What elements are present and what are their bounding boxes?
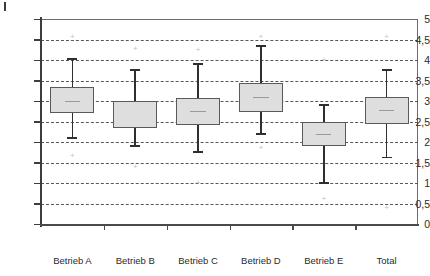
y-axis-tick-label: 1 xyxy=(400,178,430,188)
outlier-marker: + xyxy=(67,153,77,159)
outlier-marker: + xyxy=(319,196,329,202)
y-axis-tick-label: 0,5 xyxy=(400,199,430,209)
whisker-cap-lower xyxy=(319,182,329,184)
whisker-cap-lower xyxy=(67,137,77,139)
outlier-marker: + xyxy=(319,57,329,63)
outlier-marker: + xyxy=(193,180,203,186)
x-axis-tick xyxy=(167,224,169,230)
gridline xyxy=(41,204,418,205)
median-line xyxy=(190,111,205,112)
y-axis-tick-label: 5 xyxy=(400,14,430,24)
median-line xyxy=(379,110,394,111)
whisker-cap-upper xyxy=(67,58,77,60)
x-axis-tick xyxy=(230,224,232,230)
whisker-cap-lower xyxy=(256,133,266,135)
outlier-marker: + xyxy=(256,145,266,151)
gridline xyxy=(41,40,418,41)
whisker-cap-lower xyxy=(382,157,392,159)
gridline xyxy=(41,142,418,143)
gridline xyxy=(41,122,418,123)
x-axis-tick xyxy=(355,224,357,230)
boxplot-chart: 00,511,522,533,544,55 Betrieb ABetrieb B… xyxy=(0,0,430,276)
median-line xyxy=(253,97,268,98)
whisker-cap-upper xyxy=(319,104,329,106)
outlier-marker: + xyxy=(193,47,203,53)
whisker-cap-upper xyxy=(256,45,266,47)
scan-artifact-mark xyxy=(4,2,6,11)
y-axis-line xyxy=(40,17,42,227)
y-axis-tick-label: 1,5 xyxy=(400,158,430,168)
gridline xyxy=(41,101,418,102)
whisker-cap-upper xyxy=(382,69,392,71)
outlier-marker: + xyxy=(382,34,392,40)
gridline xyxy=(41,60,418,61)
x-axis-tick xyxy=(292,224,294,230)
gridline xyxy=(41,183,418,184)
x-axis-tick xyxy=(104,224,106,230)
y-axis-tick-label: 2 xyxy=(400,137,430,147)
median-line xyxy=(65,101,80,102)
outlier-marker: + xyxy=(256,34,266,40)
whisker-cap-upper xyxy=(130,69,140,71)
box-iqr xyxy=(50,87,94,114)
outlier-marker: + xyxy=(67,34,77,40)
y-axis-tick-label: 4,5 xyxy=(400,35,430,45)
whisker-cap-lower xyxy=(193,151,203,153)
outlier-marker: + xyxy=(130,164,140,170)
gridline xyxy=(41,81,418,82)
box-iqr xyxy=(113,101,157,128)
y-axis-tick-label: 4 xyxy=(400,55,430,65)
whisker-cap-upper xyxy=(193,63,203,65)
outlier-marker: + xyxy=(382,205,392,211)
whisker-cap-lower xyxy=(130,145,140,147)
median-line xyxy=(316,134,331,135)
y-axis-tick-label: 3,5 xyxy=(400,76,430,86)
outlier-marker: + xyxy=(130,46,140,52)
gridline xyxy=(41,163,418,164)
x-axis-tick-label: Total xyxy=(347,255,427,266)
